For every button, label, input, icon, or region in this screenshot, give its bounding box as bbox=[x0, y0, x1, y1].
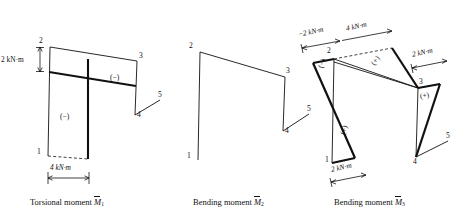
frame-outline-panel-2 bbox=[198, 52, 309, 160]
panel-1-sign-label-beam: (−) bbox=[110, 73, 119, 82]
panel-1-dimension-4kNm-label: 4 kN·m bbox=[50, 163, 71, 172]
panel-3-caption: Bending moment M3 bbox=[334, 197, 405, 207]
dimension-2kNm-panel-1 bbox=[36, 47, 44, 72]
panel-3-node-label-4: 4 bbox=[413, 157, 417, 166]
dim-line bbox=[302, 41, 340, 48]
dim-line bbox=[342, 31, 392, 41]
panel-1-node-label-5: 5 bbox=[158, 90, 162, 99]
ordinate-line-upper bbox=[49, 72, 136, 86]
panel-1-node-label-4: 4 bbox=[137, 110, 141, 119]
moment-diagrams-figure bbox=[0, 0, 466, 217]
frame-outline-panel-1 bbox=[48, 47, 160, 156]
dim-line bbox=[412, 61, 447, 68]
moment-diagram-panel-1 bbox=[49, 59, 136, 159]
panel-2-node-label-1: 1 bbox=[187, 151, 191, 160]
dimension-neg2kNm-panel-3 bbox=[301, 39, 340, 53]
panel-2-caption-subscript: 2 bbox=[261, 201, 264, 207]
member-1-2 bbox=[198, 52, 200, 160]
member-2-3 bbox=[50, 47, 137, 61]
dim-line bbox=[331, 175, 366, 182]
panel-1-node-label-1: 1 bbox=[37, 147, 41, 156]
panel-1-caption: Torsional moment M1 bbox=[30, 197, 104, 207]
diagram-closure-panel-1 bbox=[48, 156, 88, 159]
member-3-4 bbox=[135, 61, 137, 115]
dimension-2kNm-node1-panel-3 bbox=[330, 173, 366, 187]
panel-3-node-label-2: 2 bbox=[327, 46, 331, 55]
panel-3-node-label-3: 3 bbox=[419, 77, 423, 86]
member-1-2 bbox=[48, 47, 50, 156]
panel-2-caption-symbol: M bbox=[254, 197, 261, 207]
panel-2-node-label-3: 3 bbox=[286, 66, 290, 75]
panel-2-bending-moment bbox=[198, 52, 309, 160]
panel-1-dimension-2kNm-label: 2 kN·m bbox=[1, 55, 24, 64]
panel-3-caption-text: Bending moment bbox=[334, 197, 395, 207]
member-2-3 bbox=[200, 52, 285, 77]
panel-2-caption: Bending moment M2 bbox=[193, 197, 264, 207]
panel-3-sign-label-column-positive: (+) bbox=[419, 90, 430, 101]
panel-1-caption-subscript: 1 bbox=[101, 201, 104, 207]
panel-3-node-label-5: 5 bbox=[446, 131, 450, 140]
dimension-4kNm-panel-1 bbox=[48, 172, 89, 184]
panel-3-node-label-1: 1 bbox=[325, 155, 329, 164]
panel-2-caption-text: Bending moment bbox=[193, 197, 254, 207]
panel-2-node-label-2: 2 bbox=[189, 41, 193, 50]
panel-1-sign-label-column: (−) bbox=[60, 112, 69, 121]
panel-3-caption-symbol: M bbox=[395, 197, 402, 207]
panel-1-node-label-2: 2 bbox=[39, 36, 43, 45]
member-3-4 bbox=[416, 88, 418, 157]
closure-bottom bbox=[48, 156, 88, 159]
member-3-4 bbox=[283, 77, 285, 131]
panel-1-caption-text: Torsional moment bbox=[30, 197, 94, 207]
panel-3-caption-subscript: 3 bbox=[402, 201, 405, 207]
panel-2-node-label-5: 5 bbox=[307, 104, 311, 113]
panel-1-node-label-3: 3 bbox=[139, 51, 143, 60]
panel-1-caption-symbol: M bbox=[94, 197, 101, 207]
closure-node2-top bbox=[334, 48, 392, 59]
panel-2-node-label-4: 4 bbox=[285, 126, 289, 135]
dimension-2kNm-node3-panel-3 bbox=[411, 59, 447, 73]
